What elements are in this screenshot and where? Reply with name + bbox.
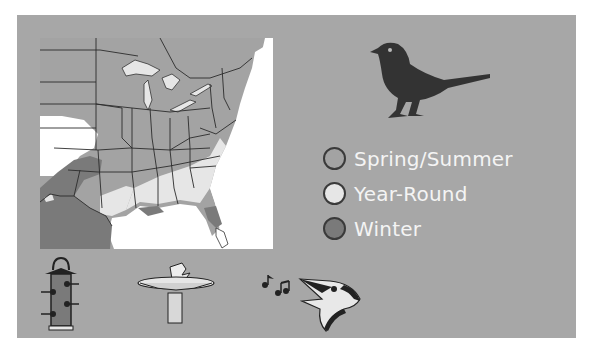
range-map-panel: Spring/Summer Year-Round Winter [17,15,576,338]
bird-silhouette-icon [368,40,492,120]
legend: Spring/Summer Year-Round Winter [323,141,513,246]
singing-bird-icon [260,273,370,335]
legend-item-year-round: Year-Round [323,176,513,211]
us-map-svg [40,38,273,249]
range-map [40,38,273,249]
legend-item-spring-summer: Spring/Summer [323,141,513,176]
legend-label: Year-Round [354,182,468,206]
legend-item-winter: Winter [323,211,513,246]
legend-label: Spring/Summer [354,147,513,171]
year-round-swatch [323,182,346,205]
winter-swatch [323,217,346,240]
legend-label: Winter [354,217,421,241]
birdbath-icon [136,261,216,331]
spring-summer-swatch [323,147,346,170]
tube-feeder-icon [39,256,83,336]
